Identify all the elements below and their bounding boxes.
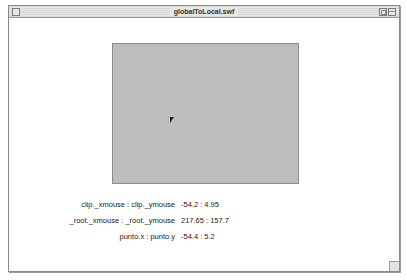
readout-clip-mouse: clip._xmouse : clip._ymouse -54.2 : 4.95 [9, 200, 401, 212]
readout-value: -54.4 : 5.2 [181, 232, 215, 241]
readout-value: 217.65 : 157.7 [181, 216, 229, 225]
collapse-box-icon[interactable] [388, 8, 396, 16]
flash-player-window: globalToLocal.swf clip._xmouse : clip._y… [8, 5, 400, 272]
swf-stage: clip._xmouse : clip._ymouse -54.2 : 4.95… [9, 18, 399, 271]
readout-label: punto.x : punto.y [120, 232, 175, 241]
zoom-box-icon[interactable] [379, 8, 387, 16]
resize-grip-icon[interactable] [389, 261, 399, 271]
readout-punto: punto.x : punto.y -54.4 : 5.2 [9, 232, 401, 244]
readout-value: -54.2 : 4.95 [181, 200, 219, 209]
readout-label: _root._xmouse : _root._ymouse [70, 216, 175, 225]
readout-label: clip._xmouse : clip._ymouse [81, 200, 175, 209]
title-bar[interactable]: globalToLocal.swf [9, 6, 399, 18]
readout-root-mouse: _root._xmouse : _root._ymouse 217.65 : 1… [9, 216, 401, 228]
clip-movieclip-rectangle[interactable] [112, 43, 299, 184]
window-title: globalToLocal.swf [9, 6, 399, 17]
mouse-cursor-icon [170, 117, 174, 123]
